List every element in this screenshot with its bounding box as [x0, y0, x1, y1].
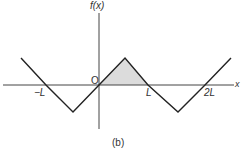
tick-label-2l: 2L: [204, 88, 215, 98]
tick-label-neg-l: −L: [34, 88, 45, 98]
y-axis-label: f(x): [90, 1, 104, 11]
tick-label-l: L: [146, 88, 152, 98]
shaded-region: [99, 58, 148, 85]
origin-label: O: [91, 76, 99, 86]
figure-caption: (b): [112, 138, 124, 148]
x-axis-label: x: [235, 80, 240, 89]
triangle-wave-diagram: [0, 0, 242, 150]
